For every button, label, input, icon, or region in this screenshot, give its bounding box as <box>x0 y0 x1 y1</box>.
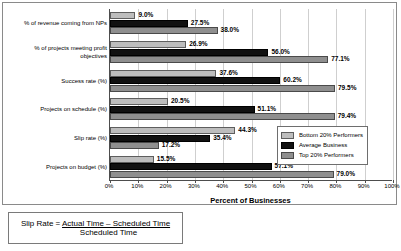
x-tick-label: 80% <box>329 183 341 189</box>
gridline <box>195 9 196 180</box>
plot-area: 9.0%27.5%38.0%26.9%56.0%77.1%37.6%60.2%7… <box>109 9 392 195</box>
legend-label: Top 20% Performers <box>299 152 354 158</box>
bar <box>110 156 154 163</box>
legend-label: Average Business <box>299 142 347 148</box>
bar-value-label: 9.0% <box>138 11 153 19</box>
bar <box>110 85 335 92</box>
chart-screenshot: % of revenue coming from NPs% of project… <box>0 0 401 251</box>
bar <box>110 98 168 105</box>
x-tick-label: 50% <box>244 183 256 189</box>
legend-swatch <box>281 132 294 139</box>
bar-value-label: 37.6% <box>219 69 237 77</box>
x-axis-ticks: 0%10%20%30%40%50%60%70%80%90%100% <box>109 182 392 195</box>
x-tick-label: 10% <box>131 183 143 189</box>
formula-denominator: Scheduled Time <box>80 228 137 237</box>
category-label: Success rate (%) <box>6 77 107 85</box>
category-label: Slip rate (%) <box>6 134 107 142</box>
bar <box>110 56 328 63</box>
bar-value-label: 79.4% <box>338 112 356 120</box>
formula-lead: Slip Rate = <box>21 219 62 228</box>
x-axis-title: Percent of Businesses <box>109 196 392 205</box>
bar <box>110 12 135 19</box>
bar-value-label: 79.5% <box>338 84 356 92</box>
gridline <box>223 9 224 180</box>
bar <box>110 20 188 27</box>
x-tick-label: 30% <box>188 183 200 189</box>
category-label: Projects on schedule (%) <box>6 105 107 113</box>
legend-item: Bottom 20% Performers <box>281 131 363 140</box>
bar <box>110 135 210 142</box>
gridline <box>393 9 394 180</box>
category-label: % of projects meeting profit objectives <box>6 44 107 60</box>
bar-value-label: 44.3% <box>238 126 256 134</box>
bar-value-label: 15.5% <box>157 155 175 163</box>
bar-value-label: 79.0% <box>337 170 355 178</box>
chart-legend: Bottom 20% PerformersAverage BusinessTop… <box>277 126 368 165</box>
bar-value-label: 26.9% <box>189 40 207 48</box>
category-label: % of revenue coming from NPs <box>6 19 107 27</box>
gridline <box>252 9 253 180</box>
bar-value-label: 17.2% <box>162 141 180 149</box>
category-label: Projects on budget (%) <box>6 163 107 171</box>
bar-value-label: 60.2% <box>283 76 301 84</box>
bar-value-label: 27.5% <box>191 19 209 27</box>
bar <box>110 41 186 48</box>
x-tick-label: 20% <box>160 183 172 189</box>
x-tick-label: 40% <box>216 183 228 189</box>
chart-frame: % of revenue coming from NPs% of project… <box>2 2 397 205</box>
legend-swatch <box>281 142 294 149</box>
plot-inner: 9.0%27.5%38.0%26.9%56.0%77.1%37.6%60.2%7… <box>109 9 392 181</box>
x-tick-label: 90% <box>358 183 370 189</box>
category-axis-labels: % of revenue coming from NPs% of project… <box>6 9 107 181</box>
bar-value-label: 38.0% <box>221 26 239 34</box>
legend-label: Bottom 20% Performers <box>299 132 363 138</box>
bar-value-label: 35.4% <box>213 134 231 142</box>
legend-item: Average Business <box>281 141 363 150</box>
bar <box>110 142 159 149</box>
bar <box>110 113 335 120</box>
bar <box>110 106 255 113</box>
bar-value-label: 51.1% <box>258 105 276 113</box>
legend-item: Top 20% Performers <box>281 151 363 160</box>
bar <box>110 49 268 56</box>
bar <box>110 70 216 77</box>
formula-numerator: Actual Time – Scheduled Time <box>62 219 170 228</box>
legend-swatch <box>281 152 294 159</box>
x-tick-label: 100% <box>384 183 399 189</box>
slip-rate-formula-box: Slip Rate = Actual Time – Scheduled Time… <box>8 212 183 244</box>
bar-value-label: 56.0% <box>271 48 289 56</box>
bar <box>110 27 218 34</box>
bar <box>110 77 280 84</box>
gridline <box>138 9 139 180</box>
bar <box>110 163 272 170</box>
x-tick-label: 70% <box>301 183 313 189</box>
bar-value-label: 20.5% <box>171 97 189 105</box>
bar <box>110 171 334 178</box>
formula-numerator-line: Slip Rate = Actual Time – Scheduled Time <box>21 219 170 228</box>
bar-value-label: 77.1% <box>331 55 349 63</box>
x-tick-label: 60% <box>273 183 285 189</box>
x-tick-label: 0% <box>105 183 114 189</box>
